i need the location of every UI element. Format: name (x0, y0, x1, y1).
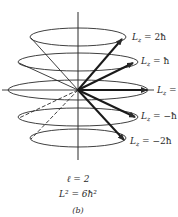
label-m-neg2: Lz = −2ħ (129, 136, 172, 147)
angular-momentum-cone-diagram: Lz = 2ħ Lz = ħ Lz = Lz = −ħ Lz = −2ħ ℓ =… (0, 0, 178, 217)
label-m-0: Lz = (156, 85, 177, 96)
total-angular-momentum-label: L² = 6ħ² (58, 189, 97, 199)
vector-m-2 (78, 39, 122, 90)
angular-momentum-vectors (78, 39, 147, 140)
quantum-number-label: ℓ = 2 (67, 174, 90, 184)
vector-m-neg1 (78, 90, 135, 117)
panel-label: (b) (72, 206, 83, 215)
vector-m-1 (78, 63, 133, 90)
label-m-neg1: Lz = −ħ (140, 111, 177, 122)
vector-m-neg2 (78, 90, 124, 140)
label-m-1: Lz = ħ (140, 56, 169, 67)
label-m-2: Lz = 2ħ (131, 32, 166, 43)
